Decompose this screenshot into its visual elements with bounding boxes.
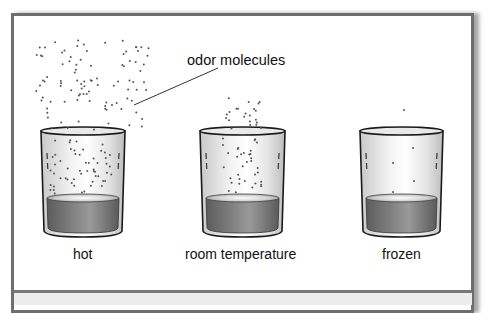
odor-molecule [126,97,128,99]
liquid-surface [206,194,279,202]
odor-molecule [244,180,246,182]
odor-molecule [95,175,97,177]
liquid-surface [366,194,437,202]
liquid [366,198,437,233]
odor-molecule [90,65,92,67]
odor-molecule [86,93,88,95]
odor-molecule [97,162,99,164]
odor-molecule [78,95,80,97]
odor-molecule [54,139,56,141]
odor-molecule [129,79,131,81]
glass-rim [200,127,285,135]
odor-molecule [53,186,55,188]
odor-molecule [243,152,245,154]
odor-molecule [105,157,107,159]
odor-molecule [260,181,262,183]
odor-molecule [89,100,91,102]
odor-molecule [54,193,56,195]
odor-molecule [250,157,252,159]
odor-molecule [88,91,90,93]
odor-molecule [92,181,94,183]
odor-molecule [64,50,66,52]
odor-molecule [127,88,129,90]
odor-molecule [83,190,85,192]
odor-molecule [86,170,88,172]
odor-molecule [108,122,110,124]
liquid-surface [47,194,119,202]
odor-molecule [148,47,150,49]
glass-room-temperature [200,127,285,237]
odor-molecule [76,141,78,143]
odor-molecule [250,160,252,162]
odor-molecule [83,85,85,87]
odor-molecule [255,110,257,112]
odor-molecule [147,55,149,57]
odor-molecule [78,121,80,123]
odor-molecule [70,148,72,150]
odor-molecule [412,147,414,149]
odor-molecule [49,189,51,191]
glass-rim [360,127,443,135]
odor-molecule [132,81,134,83]
odor-molecule [106,172,108,174]
odor-molecule [116,102,118,104]
odor-leader-line [134,68,218,105]
odor-molecule [111,104,113,106]
odor-molecule [140,46,142,48]
odor-molecule [97,84,99,86]
odor-molecule [42,96,44,98]
odor-molecule [228,190,230,192]
odor-molecule [128,124,130,126]
odor-molecule [242,165,244,167]
odor-molecule [235,191,237,193]
odor-molecule [238,183,240,185]
odor-molecule [257,171,259,173]
odor-molecule [143,64,145,66]
odor-molecule [225,117,227,119]
odor-molecule [46,112,48,114]
glass-label-frozen: frozen [382,246,421,262]
odor-molecule [222,144,224,146]
odor-molecule [258,103,260,105]
odor-molecule [75,64,77,66]
odor-molecule [131,100,133,102]
odor-molecule [109,165,111,167]
odor-molecule [76,99,78,101]
odor-molecule [44,47,46,49]
glass-hot [41,127,125,237]
odor-molecule [93,169,95,171]
odor-molecule [249,114,251,116]
odor-molecule [123,53,125,55]
odor-molecule [61,52,63,54]
odor-molecule [237,148,239,150]
odor-molecule [104,108,106,110]
odor-molecule [113,85,115,87]
odor-molecule [101,185,103,187]
odor-molecule [226,113,228,115]
odor-molecule [104,180,106,182]
odor-molecule [125,51,127,53]
odor-molecule [139,70,141,72]
odor-molecule [64,101,66,103]
odor-molecule [229,111,231,113]
odor-molecule [228,119,230,121]
odor-molecule [236,108,238,110]
odor-molecule [74,149,76,151]
odor-molecule [73,178,75,180]
odor-molecule [227,152,229,154]
odor-molecule [137,50,139,52]
odor-molecule [53,189,55,191]
glass-rim [41,127,125,135]
odor-molecule [39,47,41,49]
odor-molecule [71,182,73,184]
odor-molecule [83,93,85,95]
odor-molecule [81,191,83,193]
odor-molecule [67,167,69,169]
odor-molecule [256,121,258,123]
odor-molecule [50,184,52,186]
odor-molecule [249,124,251,126]
glass-label-hot: hot [73,246,92,262]
odor-molecule [69,141,71,143]
liquid [47,198,119,233]
odor-molecule [62,63,64,65]
